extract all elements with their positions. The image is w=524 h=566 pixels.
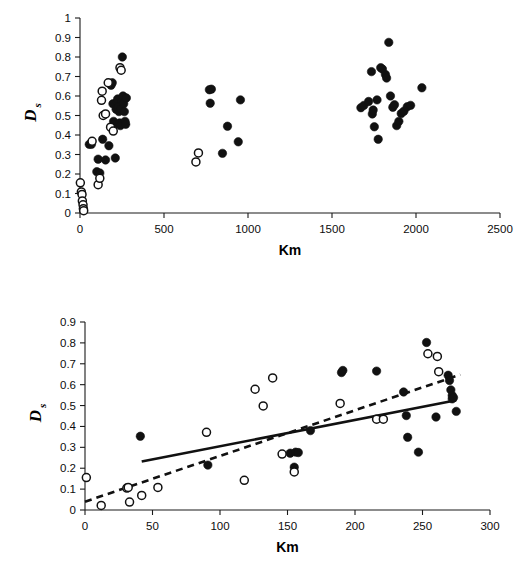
data-point bbox=[194, 149, 202, 157]
x-tick-label: 1000 bbox=[235, 223, 261, 235]
data-point bbox=[290, 468, 298, 476]
chart-panel-bottom: 00.10.20.30.40.50.60.70.80.9050100150200… bbox=[0, 290, 524, 566]
data-point bbox=[373, 96, 381, 104]
x-tick-label: 300 bbox=[480, 520, 499, 532]
data-point bbox=[339, 366, 347, 374]
data-point bbox=[240, 476, 248, 484]
data-point bbox=[124, 483, 132, 491]
data-point bbox=[118, 53, 126, 61]
data-point bbox=[251, 385, 259, 393]
series-filled bbox=[85, 38, 426, 177]
data-point bbox=[192, 158, 200, 166]
data-point bbox=[120, 107, 128, 115]
data-point bbox=[433, 352, 441, 360]
data-point bbox=[97, 501, 105, 509]
data-point bbox=[449, 393, 457, 401]
data-point bbox=[399, 388, 407, 396]
data-point bbox=[105, 142, 113, 150]
y-axis-title-subscript: s bbox=[31, 103, 43, 108]
data-point bbox=[234, 138, 242, 146]
data-point bbox=[374, 135, 382, 143]
data-point bbox=[424, 350, 432, 358]
data-point bbox=[236, 96, 244, 104]
x-tick-label: 150 bbox=[278, 520, 297, 532]
y-tick-label: 0.4 bbox=[60, 420, 77, 432]
data-point bbox=[98, 135, 106, 143]
data-point bbox=[379, 415, 387, 423]
y-tick-label: 0.9 bbox=[55, 32, 71, 44]
y-tick-label: 0 bbox=[65, 207, 71, 219]
data-point bbox=[98, 96, 106, 104]
data-point bbox=[336, 399, 344, 407]
x-tick-label: 50 bbox=[146, 520, 159, 532]
data-point bbox=[104, 79, 112, 87]
series-open bbox=[76, 64, 202, 215]
y-tick-label: 0.7 bbox=[55, 71, 71, 83]
chart-panel-top: 00.10.20.30.40.50.60.70.80.9105001000150… bbox=[0, 0, 524, 280]
data-point bbox=[369, 106, 377, 114]
data-point bbox=[102, 110, 110, 118]
data-point bbox=[88, 137, 96, 145]
data-point bbox=[406, 101, 414, 109]
data-point bbox=[278, 450, 286, 458]
data-point bbox=[138, 491, 146, 499]
x-tick-label: 1500 bbox=[319, 223, 345, 235]
data-point bbox=[422, 338, 430, 346]
data-point bbox=[82, 474, 90, 482]
figure-container: 00.10.20.30.40.50.60.70.80.9105001000150… bbox=[0, 0, 524, 566]
data-point bbox=[80, 207, 88, 215]
data-point bbox=[414, 448, 422, 456]
data-point bbox=[126, 498, 134, 506]
data-point bbox=[96, 174, 104, 182]
data-point bbox=[452, 407, 460, 415]
x-tick-label: 0 bbox=[82, 520, 88, 532]
y-tick-label: 0.7 bbox=[60, 358, 76, 370]
y-tick-label: 0.3 bbox=[60, 441, 76, 453]
x-tick-label: 0 bbox=[77, 223, 83, 235]
data-point bbox=[136, 432, 144, 440]
y-tick-label: 0.4 bbox=[55, 129, 72, 141]
data-point bbox=[206, 99, 214, 107]
data-point bbox=[418, 84, 426, 92]
x-tick-label: 250 bbox=[413, 520, 432, 532]
data-point bbox=[395, 117, 403, 125]
y-tick-label: 0.5 bbox=[55, 110, 71, 122]
data-point bbox=[76, 179, 84, 187]
y-axis-title-symbol: D bbox=[21, 109, 40, 122]
x-axis-title: Km bbox=[279, 242, 302, 258]
data-point bbox=[382, 74, 390, 82]
scatter-plot-top: 00.10.20.30.40.50.60.70.80.9105001000150… bbox=[0, 0, 524, 280]
y-tick-label: 0.8 bbox=[55, 51, 71, 63]
data-point bbox=[204, 461, 212, 469]
data-point bbox=[306, 426, 314, 434]
data-point bbox=[109, 127, 117, 135]
y-tick-label: 0.6 bbox=[55, 90, 71, 102]
y-tick-label: 1 bbox=[65, 12, 71, 24]
data-point bbox=[435, 368, 443, 376]
y-axis-title-subscript: s bbox=[36, 404, 48, 409]
y-tick-label: 0 bbox=[70, 504, 76, 516]
data-point bbox=[269, 374, 277, 382]
y-tick-label: 0.3 bbox=[55, 149, 71, 161]
data-point bbox=[370, 123, 378, 131]
data-point bbox=[403, 433, 411, 441]
x-tick-label: 200 bbox=[345, 520, 364, 532]
x-tick-label: 2500 bbox=[487, 223, 513, 235]
data-point bbox=[402, 411, 410, 419]
data-point bbox=[117, 66, 125, 74]
data-point bbox=[154, 483, 162, 491]
data-point bbox=[386, 92, 394, 100]
x-tick-label: 100 bbox=[210, 520, 229, 532]
y-tick-label: 0.9 bbox=[60, 316, 76, 328]
y-tick-label: 0.1 bbox=[55, 188, 71, 200]
data-point bbox=[259, 402, 267, 410]
x-axis-title: Km bbox=[276, 539, 299, 555]
y-tick-label: 0.5 bbox=[60, 400, 76, 412]
data-point bbox=[223, 122, 231, 130]
y-tick-label: 0.8 bbox=[60, 337, 76, 349]
data-point bbox=[218, 149, 226, 157]
y-axis-title: Ds bbox=[21, 103, 43, 122]
y-axis-title-symbol: D bbox=[26, 410, 45, 423]
y-axis-title: Ds bbox=[26, 404, 48, 423]
data-point bbox=[445, 376, 453, 384]
